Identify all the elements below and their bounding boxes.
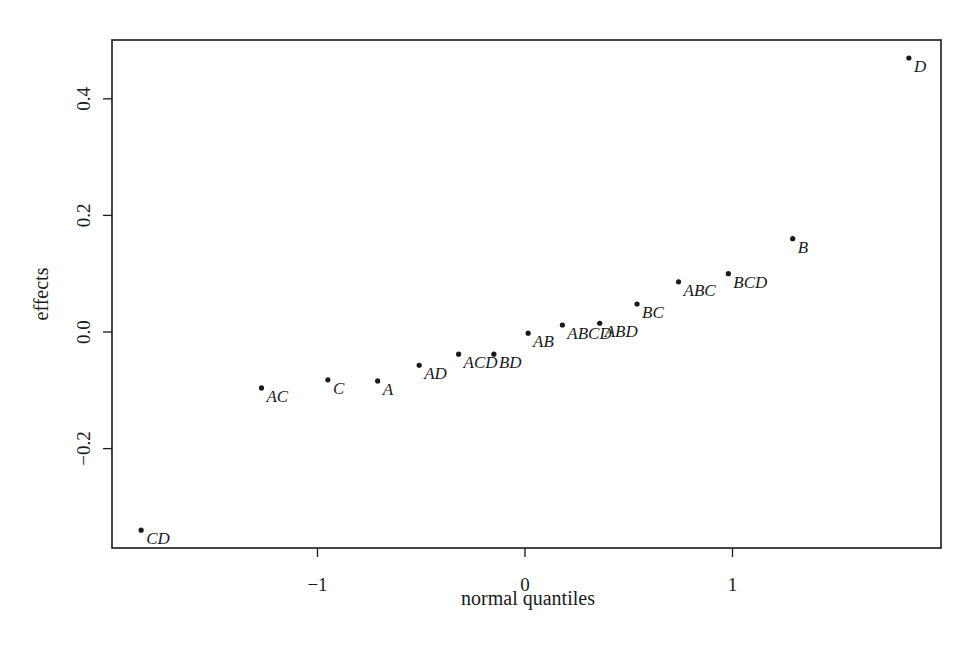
point-label-abd: ABD [604,322,639,341]
point-label-ab: AB [532,332,554,351]
plot-frame [112,40,941,548]
point-label-ac: AC [265,387,288,406]
data-point-cd [139,528,144,533]
y-axis-title: effects [30,267,52,320]
data-point-b [790,236,795,241]
point-label-abc: ABC [683,281,717,300]
point-label-a: A [382,380,394,399]
data-point-a [375,378,380,383]
data-point-bd [491,352,496,357]
x-axis-title: normal quantiles [461,587,595,610]
y-tick-label: 0.0 [73,320,94,344]
point-label-c: C [333,379,345,398]
data-point-c [325,377,330,382]
data-point-ab [526,331,531,336]
data-point-d [906,55,911,60]
y-tick-label: −0.2 [73,431,94,465]
point-label-cd: CD [146,529,170,548]
data-point-bc [634,301,639,306]
data-point-ad [417,363,422,368]
data-point-abcd [560,322,565,327]
point-label-ad: AD [423,364,447,383]
y-tick-label: 0.4 [73,86,94,110]
point-label-bcd: BCD [733,273,768,292]
data-point-bcd [726,271,731,276]
point-label-b: B [798,238,809,257]
x-tick-label: −1 [307,574,327,595]
normal-probability-plot: −101−0.20.00.20.4 CDACCAADACDBDABABCDABD… [0,0,966,653]
x-tick-label: 1 [728,574,738,595]
point-label-bd: BD [499,353,522,372]
data-point-ac [259,385,264,390]
data-point-abc [676,279,681,284]
point-label-bc: BC [642,303,664,322]
data-point-acd [456,352,461,357]
point-label-d: D [913,57,927,76]
data-point-abd [597,321,602,326]
y-tick-label: 0.2 [73,204,94,228]
